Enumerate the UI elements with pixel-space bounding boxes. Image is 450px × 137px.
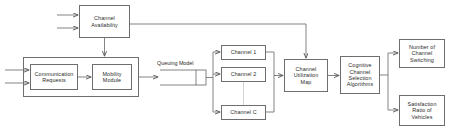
queue-body: [160, 70, 196, 85]
queue-server: [196, 70, 206, 85]
node-channel-2[interactable]: Channel 2: [221, 67, 266, 82]
node-channel-utilization-map[interactable]: Channel Utilization Map: [284, 59, 328, 92]
node-channel-1[interactable]: Channel 1: [221, 45, 266, 60]
node-satisfaction-ratio-of-vehicles[interactable]: Satisfaction Ratio of Vehicles: [399, 95, 445, 126]
node-mobility-module[interactable]: Mobility Module: [92, 64, 132, 90]
line-availability-to-utilization: [130, 24, 306, 58]
channels-collector-bus: [266, 52, 283, 112]
cognitive-output-bus: [380, 53, 388, 110]
node-channel-c[interactable]: Channel C: [221, 105, 266, 120]
queue-output-bus: [206, 52, 213, 112]
block-diagram: Channel Availability Communication Reque…: [0, 0, 450, 137]
node-number-of-channel-switching[interactable]: Number of Channel Switching: [399, 39, 445, 68]
node-channel-availability[interactable]: Channel Availability: [79, 5, 130, 38]
label-queuing-model: Queuing Model: [157, 60, 194, 66]
node-communication-requests[interactable]: Communication Requests: [30, 64, 78, 90]
node-cognitive-channel-selection-algorithms[interactable]: Cognitive Channel Selection Algorithms: [340, 56, 380, 94]
